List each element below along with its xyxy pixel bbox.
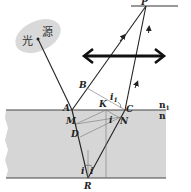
label-angle-i-right: i [90, 166, 94, 176]
label-n: n [159, 111, 166, 121]
label-B: B [78, 80, 87, 90]
optics-diagram: 光 源 P B A K C M N D R i1 i i i n1 n [0, 0, 191, 192]
light-source-char-1: 光 [22, 34, 33, 48]
arrow-C-P-lower [135, 83, 137, 88]
label-R: R [83, 181, 92, 191]
incident-ray [38, 39, 72, 110]
label-P: P [140, 0, 148, 7]
label-N: N [119, 116, 129, 126]
label-A: A [62, 103, 70, 113]
arrow-C-P-upper [149, 28, 150, 33]
label-C: C [126, 104, 134, 114]
light-source [10, 12, 66, 59]
label-n1: n1 [159, 100, 170, 111]
label-angle-i1: i1 [110, 92, 118, 103]
label-M: M [65, 116, 77, 126]
label-D: D [70, 129, 79, 139]
label-K: K [98, 99, 108, 109]
light-source-char-2: 源 [42, 25, 53, 39]
label-angle-i-left: i [81, 166, 85, 176]
reflected-ray-A [72, 6, 146, 110]
label-angle-i: i [109, 115, 113, 125]
